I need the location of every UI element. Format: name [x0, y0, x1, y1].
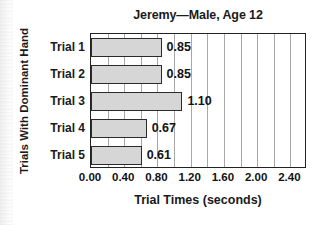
bar-row: Trial 40.67 — [91, 115, 305, 142]
x-tick-label: 1.20 — [178, 171, 200, 183]
bar-row: Trial 31.10 — [91, 88, 305, 115]
category-label: Trial 3 — [5, 92, 85, 111]
bar-row: Trial 20.85 — [91, 61, 305, 88]
bar — [91, 119, 147, 138]
x-tick-label: 1.60 — [212, 171, 234, 183]
x-tick-label: 0.80 — [145, 171, 167, 183]
chart-title: Jeremy—Male, Age 12 — [90, 8, 306, 22]
bar-row: Trial 50.61 — [91, 142, 305, 169]
category-label: Trial 5 — [5, 146, 85, 165]
bar — [91, 38, 162, 57]
category-label: Trial 4 — [5, 119, 85, 138]
bar-value-label: 0.67 — [152, 119, 176, 138]
bar-value-label: 0.61 — [147, 146, 171, 165]
category-label: Trial 1 — [5, 38, 85, 57]
bar-value-label: 1.10 — [187, 92, 211, 111]
bar — [91, 65, 162, 84]
bar-chart-figure: Jeremy—Male, Age 12 Trials With Dominant… — [0, 0, 326, 225]
x-tick-label: 0.40 — [112, 171, 134, 183]
bar — [91, 146, 142, 165]
x-tick-label: 2.40 — [278, 171, 300, 183]
x-axis-title: Trial Times (seconds) — [90, 193, 306, 207]
x-tick-label: 0.00 — [79, 171, 101, 183]
category-label: Trial 2 — [5, 65, 85, 84]
bar-value-label: 0.85 — [167, 65, 191, 84]
bar-row: Trial 10.85 — [91, 34, 305, 61]
plot-area: Trial 10.85Trial 20.85Trial 31.10Trial 4… — [90, 33, 306, 168]
x-tick-label: 2.00 — [245, 171, 267, 183]
scan-noise-artifact — [0, 0, 13, 225]
bar — [91, 92, 182, 111]
bar-value-label: 0.85 — [167, 38, 191, 57]
bars-layer: Trial 10.85Trial 20.85Trial 31.10Trial 4… — [91, 34, 305, 167]
